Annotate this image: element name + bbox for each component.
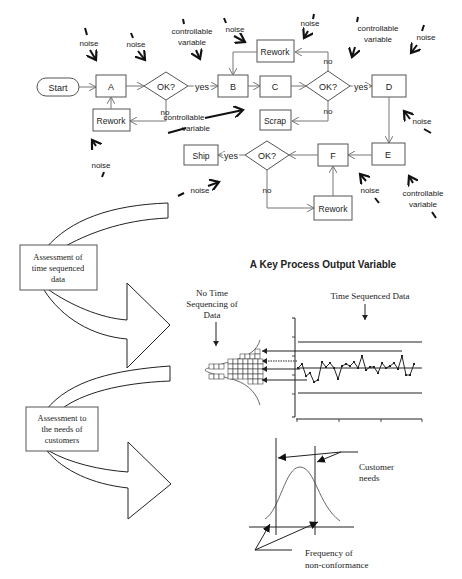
data-series bbox=[298, 356, 414, 382]
svg-text:noise: noise bbox=[225, 25, 245, 34]
svg-text:noise: noise bbox=[300, 19, 320, 28]
svg-text:B: B bbox=[230, 82, 236, 92]
svg-text:OK?: OK? bbox=[319, 82, 337, 92]
start-label: Start bbox=[48, 83, 68, 93]
svg-text:data: data bbox=[51, 274, 65, 284]
svg-text:no: no bbox=[324, 57, 333, 66]
svg-text:F: F bbox=[330, 151, 336, 161]
svg-text:variable: variable bbox=[364, 35, 393, 44]
svg-text:needs: needs bbox=[359, 473, 380, 483]
no-time-seq-label: No Time Sequencing of Data bbox=[186, 288, 238, 346]
svg-text:yes: yes bbox=[354, 82, 369, 92]
svg-text:controllable: controllable bbox=[164, 113, 205, 122]
svg-text:Time Sequenced Data: Time Sequenced Data bbox=[330, 291, 409, 301]
svg-text:Rework: Rework bbox=[261, 47, 291, 57]
capability-chart: Customer needs Frequency of non-conforma… bbox=[249, 438, 394, 570]
svg-text:OK?: OK? bbox=[258, 151, 276, 161]
flowchart: Start A OK? yes no Rework B C OK? yes no bbox=[37, 40, 406, 220]
svg-text:variable: variable bbox=[182, 124, 211, 133]
kpov-title: A Key Process Output Variable bbox=[250, 259, 397, 270]
svg-text:noise: noise bbox=[416, 33, 436, 42]
svg-text:customers: customers bbox=[45, 435, 79, 445]
svg-text:Sequencing of: Sequencing of bbox=[186, 299, 238, 309]
time-seq-label: Time Sequenced Data bbox=[330, 291, 409, 320]
svg-text:Data: Data bbox=[204, 310, 221, 320]
svg-text:E: E bbox=[385, 150, 391, 160]
assessment-box-1: Assessment of time sequenced data bbox=[20, 245, 97, 290]
svg-text:time sequenced: time sequenced bbox=[32, 263, 85, 273]
svg-text:Scrap: Scrap bbox=[264, 116, 286, 126]
svg-text:Frequency of: Frequency of bbox=[305, 548, 353, 558]
svg-text:noise: noise bbox=[190, 186, 210, 195]
svg-text:controllable: controllable bbox=[358, 24, 399, 33]
svg-text:no: no bbox=[263, 186, 272, 195]
svg-text:Customer: Customer bbox=[359, 462, 394, 472]
svg-text:noise: noise bbox=[126, 40, 146, 49]
svg-text:C: C bbox=[272, 82, 279, 92]
svg-text:noise: noise bbox=[79, 39, 99, 48]
svg-text:Assessment to: Assessment to bbox=[38, 413, 87, 423]
control-chart bbox=[262, 318, 422, 422]
svg-text:No Time: No Time bbox=[196, 288, 228, 298]
svg-text:the needs of: the needs of bbox=[41, 424, 82, 434]
svg-text:yes: yes bbox=[224, 151, 239, 161]
process-diagram: Start A OK? yes no Rework B C OK? yes no bbox=[0, 0, 462, 579]
svg-text:noise: noise bbox=[412, 117, 432, 126]
svg-text:Assessment of: Assessment of bbox=[33, 252, 83, 262]
svg-text:controllable: controllable bbox=[172, 27, 213, 36]
node-a-label: A bbox=[108, 82, 114, 92]
svg-text:no: no bbox=[324, 107, 333, 116]
svg-text:noise: noise bbox=[91, 161, 111, 170]
svg-text:noise: noise bbox=[360, 186, 380, 195]
svg-text:yes: yes bbox=[195, 82, 210, 92]
svg-text:variable: variable bbox=[409, 200, 438, 209]
svg-text:variable: variable bbox=[178, 38, 207, 47]
svg-text:Ship: Ship bbox=[192, 151, 209, 161]
svg-text:non-conformance: non-conformance bbox=[305, 560, 368, 570]
svg-text:D: D bbox=[386, 82, 393, 92]
assessment-box-2: Assessment to the needs of customers bbox=[26, 407, 98, 451]
svg-text:OK?: OK? bbox=[157, 82, 175, 92]
histogram bbox=[205, 340, 263, 405]
svg-text:Rework: Rework bbox=[319, 204, 349, 214]
svg-text:Rework: Rework bbox=[97, 116, 127, 126]
svg-text:controllable: controllable bbox=[403, 189, 444, 198]
